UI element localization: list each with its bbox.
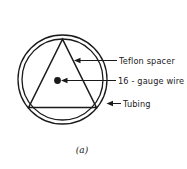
leader-teflon-spacer: [74, 58, 117, 63]
tubing-outer-circle: [18, 35, 107, 124]
teflon-spacer-triangle: [29, 39, 97, 107]
label-wire: 16 - gauge wire: [118, 76, 184, 86]
label-tubing: Tubing: [122, 99, 151, 109]
cross-section-diagram: Teflon spacer 16 - gauge wire Tubing (a): [0, 0, 187, 169]
leader-tubing: [107, 101, 122, 106]
figure-panel: Teflon spacer 16 - gauge wire Tubing (a): [0, 0, 187, 169]
leader-wire: [61, 78, 116, 83]
label-teflon-spacer: Teflon spacer: [118, 56, 175, 66]
wire-center-dot: [54, 77, 61, 84]
figure-caption: (a): [76, 145, 89, 155]
